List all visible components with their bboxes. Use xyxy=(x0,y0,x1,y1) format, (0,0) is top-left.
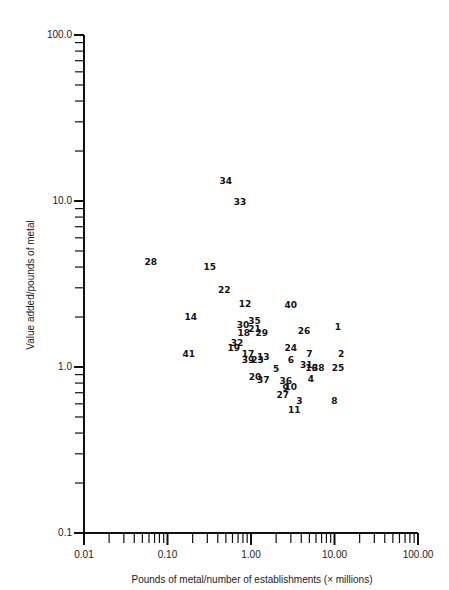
x-axis: 0.010.101.0010.00100.00 xyxy=(74,533,434,560)
x-axis-title: Pounds of metal/number of establishments… xyxy=(132,574,373,585)
data-point-label: 4 xyxy=(308,374,314,384)
data-point-label: 29 xyxy=(256,328,269,338)
data-point-label: 25 xyxy=(332,363,345,373)
data-point-label: 41 xyxy=(183,349,196,359)
data-point-label: 2 xyxy=(338,349,344,359)
data-point-label: 22 xyxy=(218,285,231,295)
data-point-label: 26 xyxy=(298,326,311,336)
data-point-label: 28 xyxy=(144,257,157,267)
data-point-label: 31 xyxy=(300,360,313,370)
data-point-label: 33 xyxy=(234,197,247,207)
data-point-label: 38 xyxy=(312,363,325,373)
y-tick-label: 0.1 xyxy=(58,527,72,538)
data-point-label: 7 xyxy=(306,349,312,359)
data-point-label: 6 xyxy=(288,355,294,365)
y-tick-label: 100.0 xyxy=(47,29,72,40)
data-point-label: 24 xyxy=(285,343,298,353)
data-point-label: 5 xyxy=(273,364,279,374)
data-point-label: 11 xyxy=(288,405,301,415)
data-point-label: 8 xyxy=(331,396,337,406)
data-point-label: 15 xyxy=(203,262,216,272)
x-tick-label: 1.00 xyxy=(241,549,261,560)
data-point-label: 32 xyxy=(231,338,244,348)
y-tick-label: 10.0 xyxy=(53,195,73,206)
y-tick-label: 1.0 xyxy=(58,361,72,372)
data-point-label: 14 xyxy=(185,312,198,322)
data-point-label: 37 xyxy=(257,375,270,385)
scatter-chart: 0.11.010.0100.0 0.010.101.0010.00100.00 … xyxy=(0,0,449,590)
data-point-label: 1 xyxy=(335,322,341,332)
data-point-label: 34 xyxy=(220,176,233,186)
data-point-label: 35 xyxy=(248,316,261,326)
data-points: 1234567891011121314151617181920212223242… xyxy=(144,176,344,415)
x-tick-label: 0.01 xyxy=(74,549,94,560)
y-axis-title: Value added/pounds of metal xyxy=(25,220,36,349)
data-point-label: 39 xyxy=(242,355,255,365)
data-point-label: 27 xyxy=(276,390,289,400)
x-tick-label: 100.00 xyxy=(403,549,434,560)
y-axis: 0.11.010.0100.0 xyxy=(47,29,84,538)
data-point-label: 12 xyxy=(239,299,252,309)
data-point-label: 40 xyxy=(285,300,298,310)
x-tick-label: 0.10 xyxy=(158,549,178,560)
x-tick-label: 10.00 xyxy=(322,549,347,560)
data-point-label: 36 xyxy=(279,376,292,386)
